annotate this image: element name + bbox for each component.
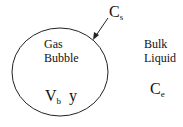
gas-label: Gas — [44, 38, 63, 50]
liquid-label: Liquid — [144, 52, 176, 64]
bulk-label: Bulk — [144, 38, 167, 50]
bulk-concentration-label: Ce — [150, 81, 165, 102]
surface-concentration-label: Cs — [109, 4, 123, 25]
bubble-fraction-label: y — [69, 88, 77, 104]
bubble-volume-label: Vb — [45, 88, 61, 109]
bubble-label: Bubble — [44, 52, 79, 64]
